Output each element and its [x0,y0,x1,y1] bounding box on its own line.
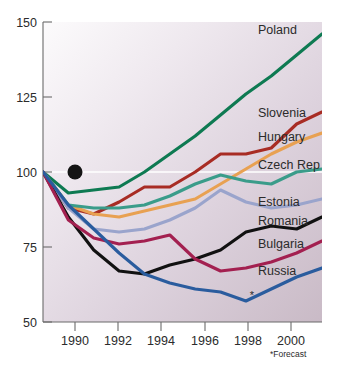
forecast-footnote: *Forecast [270,349,307,359]
x-tick-label-1990: 1990 [61,334,89,348]
series-label-bulgaria: Bulgaria [258,237,304,251]
origin-marker-dot [68,165,83,180]
y-tick-label-75: 75 [23,241,37,255]
series-label-slovenia: Slovenia [258,106,306,120]
series-label-poland: Poland [258,23,297,37]
line-chart: 150 125 100 75 50 1990 1992 1994 1996 19… [0,0,339,368]
chart-figure: 150 125 100 75 50 1990 1992 1994 1996 19… [0,0,339,368]
series-label-estonia: Estonia [258,195,300,209]
y-tick-label-100: 100 [16,166,37,180]
y-tick-label-50: 50 [23,316,37,330]
forecast-asterisk-marker: * [250,289,255,301]
y-tick-label-150: 150 [16,16,37,30]
x-tick-label-1996: 1996 [191,334,219,348]
y-tick-label-125: 125 [16,91,37,105]
x-tick-label-1998: 1998 [234,334,262,348]
x-tick-label-1992: 1992 [104,334,132,348]
series-label-czech-rep: Czech Rep [258,158,320,172]
x-tick-label-2000: 2000 [277,334,305,348]
x-tick-label-1994: 1994 [147,334,175,348]
series-label-russia: Russia [258,264,296,278]
series-label-hungary: Hungary [258,130,306,144]
series-label-romania: Romania [258,214,308,228]
